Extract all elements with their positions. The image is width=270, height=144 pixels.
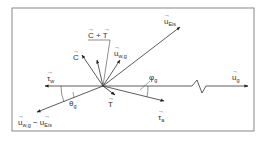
svg-text:→: →	[73, 48, 79, 54]
phi-leader	[140, 81, 150, 90]
svg-text:→: →	[47, 69, 53, 75]
label-c: C →	[73, 48, 79, 62]
phi-arc	[147, 86, 148, 97]
svg-text:→: →	[158, 108, 164, 114]
svg-text:→: →	[164, 12, 170, 18]
svg-text:→: →	[88, 26, 94, 32]
label-u-eis: uEis →	[164, 12, 176, 27]
svg-text:C + T: C + T	[88, 31, 108, 40]
label-phi-g: φg	[149, 73, 157, 83]
label-t: T →	[108, 95, 114, 109]
svg-text:→: →	[232, 68, 238, 74]
svg-text:uEis: uEis	[164, 17, 176, 27]
svg-text:T: T	[108, 100, 113, 109]
svg-text:τw: τw	[47, 74, 54, 84]
svg-text:→: →	[114, 44, 120, 50]
label-u-g: ug →	[232, 68, 240, 83]
svg-text:τa: τa	[158, 113, 165, 123]
svg-text:ug: ug	[232, 73, 240, 83]
svg-text:→: →	[18, 113, 24, 119]
label-theta-g: θg	[69, 99, 77, 109]
svg-text:C: C	[73, 53, 79, 62]
svg-text:→: →	[108, 95, 114, 101]
label-u-wg-minus-u-eis: uw,g − uEis → →	[18, 113, 52, 128]
svg-text:→: →	[44, 113, 50, 119]
vector-diagram: uEis → ug → τw → uw,g − uEis → → θg φg τ…	[0, 0, 270, 144]
label-u-wg: uw,g →	[114, 44, 127, 59]
c-plus-t-leader	[88, 40, 110, 86]
vector-u-wg	[103, 60, 120, 86]
theta-arc	[61, 86, 64, 102]
svg-text:uw,g: uw,g	[114, 49, 127, 59]
vector-c	[82, 55, 103, 86]
svg-text:φg: φg	[149, 73, 157, 83]
label-c-plus-t: C + T → →	[88, 26, 110, 40]
label-tau-a: τa →	[158, 108, 165, 123]
svg-text:→: →	[104, 26, 110, 32]
svg-text:θg: θg	[69, 99, 77, 109]
svg-text:uw,g − uEis: uw,g − uEis	[18, 118, 52, 128]
theta-leader	[73, 92, 74, 98]
label-tau-w: τw →	[47, 69, 54, 84]
